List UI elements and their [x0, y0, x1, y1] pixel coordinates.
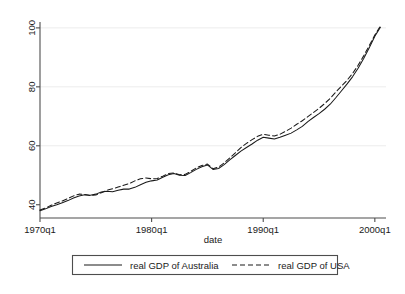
y-tick-label-60: 60: [27, 141, 38, 152]
x-axis-title: date: [204, 234, 223, 245]
x-tick-label-1980: 1980q1: [136, 224, 168, 235]
y-tick-label-40: 40: [27, 199, 38, 210]
chart-figure: 406080100 1970q11980q11990q12000q1 date …: [0, 0, 405, 294]
legend-label-australia: real GDP of Australia: [130, 260, 219, 271]
x-tick-label-1970: 1970q1: [24, 224, 56, 235]
gdp-line-chart: 406080100 1970q11980q11990q12000q1 date …: [0, 0, 405, 294]
x-tick-label-2000: 2000q1: [359, 224, 391, 235]
chart-background: [0, 0, 405, 294]
legend-label-usa: real GDP of USA: [278, 260, 350, 271]
y-tick-label-80: 80: [27, 82, 38, 93]
y-tick-label-100: 100: [27, 20, 38, 36]
chart-legend: real GDP of Australia real GDP of USA: [73, 256, 351, 275]
x-tick-label-1990: 1990q1: [247, 224, 279, 235]
